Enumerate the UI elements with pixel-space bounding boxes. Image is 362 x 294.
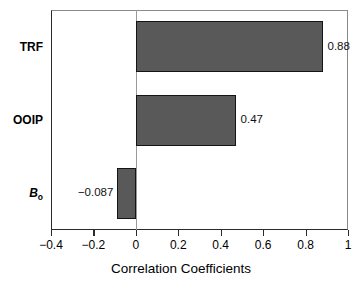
x-tick-label: 0.4 xyxy=(212,239,229,251)
x-tick xyxy=(178,230,179,236)
correlation-coefficients-bar-chart: 0.880.47−0.087 TRFOOIPBo −0.4−0.200.20.4… xyxy=(0,0,362,294)
x-tick xyxy=(263,230,264,236)
x-tick-label: 1 xyxy=(345,239,352,251)
category-label-trf: TRF xyxy=(0,41,43,53)
x-tick-label: −0.4 xyxy=(39,239,63,251)
bar-ooip xyxy=(136,95,236,146)
x-tick xyxy=(93,230,94,236)
x-tick-label: −0.2 xyxy=(82,239,106,251)
bar-bo xyxy=(117,168,135,219)
x-axis-title: Correlation Coefficients xyxy=(0,262,362,276)
bar-value-trf: 0.88 xyxy=(328,41,350,53)
bar-trf xyxy=(136,21,323,72)
x-tick xyxy=(51,230,52,236)
x-tick-label: 0.2 xyxy=(170,239,187,251)
bar-value-ooip: 0.47 xyxy=(241,114,263,126)
x-tick xyxy=(221,230,222,236)
x-tick xyxy=(348,230,349,236)
x-tick-label: 0.6 xyxy=(255,239,272,251)
x-tick xyxy=(306,230,307,236)
x-tick-label: 0 xyxy=(133,239,140,251)
category-label-ooip: OOIP xyxy=(0,114,43,126)
x-tick-label: 0.8 xyxy=(297,239,314,251)
x-tick xyxy=(136,230,137,236)
category-label-bo: Bo xyxy=(0,187,43,202)
